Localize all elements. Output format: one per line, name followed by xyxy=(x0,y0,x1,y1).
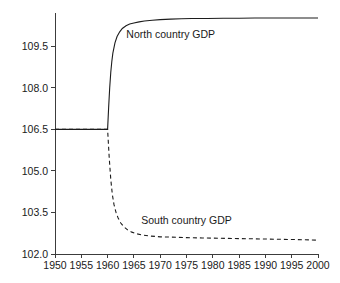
series-annotation-label: North country GDP xyxy=(126,28,215,40)
x-tick-label: 2000 xyxy=(306,259,330,271)
series-annotations-group: North country GDPSouth country GDP xyxy=(126,28,231,226)
y-tick-label: 108.0 xyxy=(22,82,48,94)
y-axis-ticks: 102.0103.5105.0106.5108.0109.5 xyxy=(22,40,55,260)
y-tick-label: 105.0 xyxy=(22,165,48,177)
y-tick-label: 106.5 xyxy=(22,123,48,135)
x-tick-label: 1980 xyxy=(201,259,225,271)
x-tick-label: 1985 xyxy=(227,259,251,271)
series-annotation-label: South country GDP xyxy=(141,214,231,226)
x-tick-label: 1950 xyxy=(43,259,67,271)
chart-container: 102.0103.5105.0106.5108.0109.5 195019551… xyxy=(0,0,340,283)
data-series-group xyxy=(55,18,318,240)
x-tick-label: 1995 xyxy=(280,259,304,271)
x-axis: 1950195519601965197019751980198519901995… xyxy=(43,254,330,271)
x-axis-ticks: 1950195519601965197019751980198519901995… xyxy=(43,254,330,271)
x-tick-label: 1970 xyxy=(149,259,173,271)
x-tick-label: 1975 xyxy=(175,259,199,271)
gdp-line-chart: 102.0103.5105.0106.5108.0109.5 195019551… xyxy=(0,0,340,283)
x-tick-label: 1965 xyxy=(122,259,146,271)
y-tick-label: 102.0 xyxy=(22,248,48,260)
y-tick-label: 109.5 xyxy=(22,40,48,52)
x-tick-label: 1955 xyxy=(70,259,94,271)
x-tick-label: 1990 xyxy=(254,259,278,271)
x-tick-label: 1960 xyxy=(96,259,120,271)
y-axis: 102.0103.5105.0106.5108.0109.5 xyxy=(22,13,55,260)
y-tick-label: 103.5 xyxy=(22,206,48,218)
